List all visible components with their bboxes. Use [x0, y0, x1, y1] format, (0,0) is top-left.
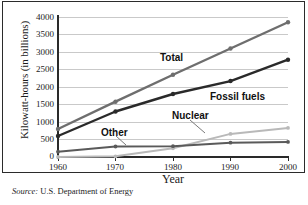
- x-tick-mark: [230, 157, 231, 161]
- gridline: [58, 122, 288, 123]
- series-label-fossil-fuels: Fossil fuels: [210, 91, 265, 102]
- gridline: [58, 104, 288, 105]
- y-axis-line: [57, 15, 59, 159]
- x-tick-label: 1980: [153, 162, 193, 172]
- x-axis-title: Year: [58, 172, 288, 187]
- gridline: [58, 17, 288, 18]
- y-tick-label: 1000: [20, 118, 54, 127]
- y-tick-label: 2000: [20, 83, 54, 92]
- y-tick-label: 0: [20, 152, 54, 161]
- source-caption: Source: U.S. Department of Energy: [12, 186, 133, 196]
- x-tick-mark: [288, 157, 289, 161]
- y-tick-label: 1500: [20, 100, 54, 109]
- series-label-nuclear: Nuclear: [172, 110, 209, 121]
- y-axis-tick-labels: 4000 3500 3000 2500 2000 1500 1000 500 0: [18, 0, 54, 205]
- y-tick-label: 2500: [20, 65, 54, 74]
- y-tick-label: 4000: [20, 13, 54, 22]
- source-prefix: Source:: [12, 186, 38, 196]
- chart-figure: Kilowatt-hours (in billions) 4000 3500 3…: [0, 0, 308, 205]
- x-tick-label: 1990: [210, 162, 250, 172]
- series-label-other: Other: [101, 127, 128, 138]
- gridline: [58, 87, 288, 88]
- source-agency: U.S. Department of Energy: [40, 186, 133, 196]
- y-tick-label: 500: [20, 135, 54, 144]
- x-tick-label: 1970: [95, 162, 135, 172]
- x-tick-mark: [115, 157, 116, 161]
- x-tick-mark: [58, 157, 59, 161]
- gridline: [58, 69, 288, 70]
- gridline: [58, 34, 288, 35]
- gridline: [58, 139, 288, 140]
- y-tick-label: 3500: [20, 30, 54, 39]
- x-tick-label: 1960: [38, 162, 78, 172]
- x-tick-mark: [173, 157, 174, 161]
- x-tick-label: 2000: [268, 162, 308, 172]
- y-tick-label: 3000: [20, 48, 54, 57]
- series-label-total: Total: [160, 52, 183, 63]
- plot-area: [58, 17, 288, 157]
